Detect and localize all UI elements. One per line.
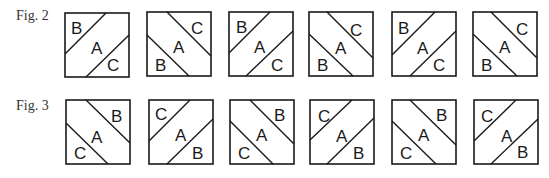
- region-label-center: A: [91, 39, 103, 58]
- region-label-bottom-right: B: [517, 143, 528, 162]
- region-label-top-right: B: [436, 106, 447, 125]
- fig3-tile-1: B A C: [65, 99, 131, 165]
- fig3-tile-4: C A B: [309, 99, 375, 165]
- region-label-bottom-right: C: [433, 56, 445, 75]
- region-label-top-right: C: [350, 21, 362, 40]
- region-label-center: A: [418, 126, 430, 145]
- region-label-center: A: [417, 39, 429, 58]
- region-label-bottom-right: B: [353, 144, 364, 163]
- fig2-tile-2: C A B: [146, 11, 212, 77]
- fig2-tile-1: B A C: [64, 12, 130, 78]
- fig3-tile-2: C A B: [148, 99, 214, 165]
- region-label-center: A: [256, 126, 268, 145]
- region-label-center: A: [499, 38, 511, 57]
- region-label-top-left: C: [155, 105, 167, 124]
- fig3-tile-6: C A B: [473, 99, 539, 165]
- region-label-top-right: B: [274, 106, 285, 125]
- fig3-tile-3: B A C: [229, 99, 295, 165]
- figure-2-label: Fig. 2: [16, 8, 49, 24]
- region-label-bottom-left: C: [238, 144, 250, 163]
- region-label-center: A: [173, 38, 185, 57]
- region-label-center: A: [254, 38, 266, 57]
- region-label-top-right: C: [516, 20, 528, 39]
- fig3-tile-5: B A C: [391, 99, 457, 165]
- region-label-center: A: [501, 127, 513, 146]
- region-label-top-left: B: [236, 18, 247, 37]
- region-label-top-left: C: [318, 107, 330, 126]
- fig2-tile-5: B A C: [391, 11, 457, 77]
- fig2-tile-3: B A C: [228, 11, 294, 77]
- region-label-bottom-right: B: [192, 144, 203, 163]
- fig2-tile-6: C A B: [472, 11, 538, 77]
- region-label-center: A: [91, 128, 103, 147]
- region-label-center: A: [175, 126, 187, 145]
- region-label-bottom-left: B: [317, 56, 328, 75]
- region-label-top-left: C: [481, 107, 493, 126]
- region-label-bottom-left: B: [481, 56, 492, 75]
- region-label-center: A: [336, 127, 348, 146]
- region-label-top-left: B: [398, 19, 409, 38]
- region-label-bottom-left: C: [400, 144, 412, 163]
- fig2-tile-4: C A B: [308, 11, 374, 77]
- region-label-bottom-right: C: [107, 56, 119, 75]
- figure-3-label: Fig. 3: [16, 98, 49, 114]
- region-label-top-right: C: [191, 19, 203, 38]
- region-label-center: A: [335, 39, 347, 58]
- region-label-top-left: B: [71, 19, 82, 38]
- region-label-top-right: B: [111, 107, 122, 126]
- region-label-bottom-right: C: [271, 56, 283, 75]
- region-label-bottom-left: C: [74, 144, 86, 163]
- region-label-bottom-left: B: [155, 56, 166, 75]
